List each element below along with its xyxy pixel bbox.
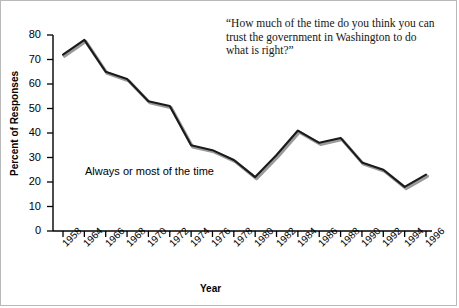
y-axis-ticks	[47, 35, 53, 231]
y-axis-tick-label: 80	[15, 28, 41, 40]
survey-question-quote: “How much of the time do you think you c…	[226, 17, 440, 58]
y-axis-tick-label: 0	[15, 224, 41, 236]
y-axis-title: Percent of Responses	[9, 64, 20, 184]
y-axis-tick-label: 10	[15, 200, 41, 212]
chart-figure: 01020304050607080 1958196419661968197019…	[0, 0, 459, 308]
x-axis-title: Year	[200, 283, 221, 294]
axis-lines	[53, 35, 432, 231]
series-inline-label: Always or most of the time	[85, 165, 214, 177]
